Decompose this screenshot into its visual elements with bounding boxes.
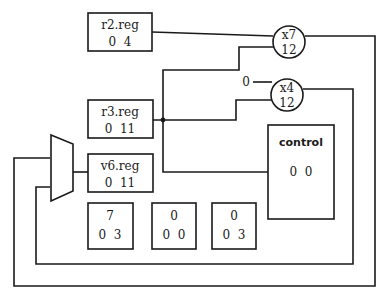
state-box-2[interactable]: 0 0 0 [152, 203, 196, 249]
operator-x4[interactable]: x4 12 [271, 79, 303, 111]
register-r2-values: 0 4 [109, 35, 132, 49]
register-v6[interactable]: v6.reg 0 11 [88, 154, 153, 192]
datapath-diagram: r2.reg 0 4 r3.reg 0 11 v6.reg 0 11 x7 12… [0, 0, 391, 300]
state-box-2-values: 0 0 [163, 228, 186, 242]
operator-x7-value: 12 [281, 43, 296, 57]
state-box-3-top: 0 [230, 209, 238, 223]
operator-x7-label: x7 [282, 28, 296, 42]
control-label: control [279, 136, 323, 149]
operator-x4-label: x4 [280, 81, 295, 95]
register-r3-label: r3.reg [101, 105, 139, 119]
register-r3[interactable]: r3.reg 0 11 [88, 100, 153, 138]
state-box-2-top: 0 [170, 209, 178, 223]
control-unit[interactable]: control 0 0 [268, 125, 334, 219]
state-box-1-values: 0 3 [99, 228, 122, 242]
state-box-3[interactable]: 0 0 3 [212, 203, 256, 249]
register-v6-values: 0 11 [105, 176, 136, 190]
constant-zero-input: 0 [242, 75, 250, 89]
register-r2-label: r2.reg [101, 18, 139, 32]
state-box-1-top: 7 [106, 209, 114, 223]
register-v6-label: v6.reg [100, 159, 140, 173]
operator-x4-value: 12 [279, 96, 294, 110]
control-values: 0 0 [290, 165, 313, 179]
state-box-3-values: 0 3 [223, 228, 246, 242]
junction-dot [161, 118, 166, 123]
state-box-1[interactable]: 7 0 3 [88, 203, 133, 249]
register-r2[interactable]: r2.reg 0 4 [88, 13, 152, 51]
multiplexer[interactable] [51, 135, 73, 201]
operator-x7[interactable]: x7 12 [273, 26, 305, 58]
register-r3-values: 0 11 [105, 122, 136, 136]
